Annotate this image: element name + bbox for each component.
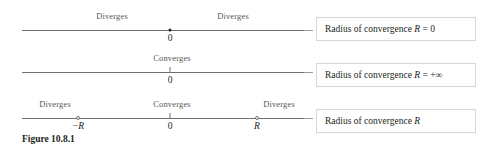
callout-connector-line [304,30,313,31]
callout-connector-line [304,72,313,73]
callout-relation-text: = +∞ [420,70,442,80]
callout-infinite-radius: Radius of convergence R = +∞ [316,63,476,87]
number-line-axis [22,72,304,73]
callout-relation-text: = 0 [420,24,435,34]
label-positive-radius: R [254,121,260,131]
callout-zero-radius: Radius of convergence R = 0 [316,17,476,41]
label-converges-center: Converges [153,53,191,63]
label-converges-center: Converges [153,99,191,109]
callout-prefix-text: Radius of convergence [325,24,414,34]
tick-zero-icon [170,67,171,72]
label-negative-radius: −R [72,121,84,131]
label-origin: 0 [168,121,173,131]
number-line-row-infinite-radius: Converges 0 [0,50,320,96]
label-diverges-right: Diverges [263,99,295,109]
label-origin: 0 [168,75,173,85]
figure-caption: Figure 10.8.1 [22,134,75,144]
callout-connector-line [304,118,313,119]
point-positive-radius-marker-icon [255,116,259,120]
number-line-axis [22,30,304,31]
label-origin: 0 [168,33,173,43]
callout-prefix-text: Radius of convergence [325,116,414,126]
point-zero-marker-icon [169,29,172,32]
label-diverges-left: Diverges [96,11,128,21]
number-line-axis [22,118,304,119]
label-diverges-right: Diverges [217,11,249,21]
callout-variable-R: R [414,116,420,126]
tick-zero-icon [170,113,171,118]
label-diverges-left: Diverges [39,99,71,109]
number-line-row-zero-radius: Diverges Diverges 0 [0,2,320,48]
callout-finite-radius: Radius of convergence R [316,109,476,133]
callout-prefix-text: Radius of convergence [325,70,414,80]
point-negative-radius-marker-icon [76,116,80,120]
radius-of-convergence-figure: Diverges Diverges 0 Radius of convergenc… [0,0,490,150]
